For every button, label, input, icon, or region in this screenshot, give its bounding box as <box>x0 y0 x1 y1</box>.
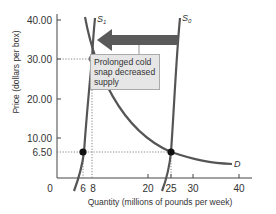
y-tick-40: 40.00 <box>27 15 52 26</box>
shift-arrow <box>97 29 178 54</box>
y-tick-6-50: 6.50 <box>33 147 53 158</box>
annotation-line-3: supply <box>94 77 156 87</box>
y-axis-title: Price (dollars per box) <box>11 30 21 113</box>
s1-point-at-6-50 <box>79 148 86 155</box>
x-tick-30: 30 <box>187 183 199 194</box>
x-tick-25: 25 <box>165 183 177 194</box>
x-axis-title: Quantity (millions of pounds per week) <box>88 197 233 207</box>
y-tick-20: 20.00 <box>27 94 52 105</box>
y-ticks <box>57 20 61 138</box>
y-tick-30: 30.00 <box>27 54 52 65</box>
annotation-line-2: snap decreased <box>94 67 156 77</box>
x-tick-0: 0 <box>47 183 53 194</box>
annotation-line-1: Prolonged cold <box>94 57 156 67</box>
x-ticks <box>148 174 239 178</box>
x-tick-8: 8 <box>90 183 96 194</box>
initial-equilibrium-point <box>167 148 174 155</box>
y-tick-10: 10.00 <box>27 133 52 144</box>
x-tick-40: 40 <box>233 183 245 194</box>
s0-label: S0 <box>182 13 192 24</box>
s1-label: S1 <box>97 14 106 25</box>
annotation-box: Prolonged cold snap decreased supply <box>90 54 160 90</box>
supply-demand-chart: 40.00 30.00 20.00 10.00 6.50 0 6 8 20 25… <box>0 0 276 214</box>
x-tick-6: 6 <box>80 183 86 194</box>
demand-label: D <box>234 159 241 169</box>
x-tick-20: 20 <box>142 183 154 194</box>
